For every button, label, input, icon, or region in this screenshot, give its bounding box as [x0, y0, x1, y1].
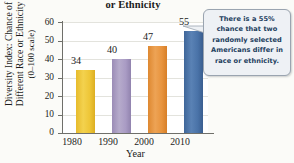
- bar-fill-2010: [184, 31, 203, 133]
- y-tick-mark-50: [58, 41, 63, 42]
- y-tick-mark-20: [58, 96, 63, 97]
- y-axis-label-line-2: Different Race or Ethnicity: [14, 2, 26, 107]
- callout-box: There is a 55% chance that two randomly …: [203, 9, 291, 76]
- bar-2010[interactable]: [184, 31, 203, 133]
- x-axis-label: Year: [63, 148, 208, 159]
- bar-2000[interactable]: [148, 46, 167, 133]
- callout-line-4: Americans differ in: [207, 45, 287, 55]
- y-axis-label-line-1: Diversity Index: Chance of: [3, 2, 15, 106]
- y-tick-label-50: 50: [32, 35, 54, 45]
- bar-fill-1990: [112, 59, 131, 133]
- bar-value-1990: 40: [97, 44, 127, 55]
- y-tick-mark-10: [58, 115, 63, 116]
- x-tick-label-2010: 2010: [163, 136, 197, 147]
- y-tick-label-0: 0: [32, 127, 54, 137]
- y-tick-mark-30: [58, 78, 63, 79]
- diversity-index-bar-chart: or Ethnicity Diversity Index: Chance of …: [0, 0, 294, 163]
- callout-line-2: chance that two: [207, 24, 287, 34]
- bar-fill-1980: [76, 70, 95, 133]
- y-tick-label-20: 20: [32, 91, 54, 101]
- x-tick-label-2000: 2000: [127, 136, 161, 147]
- x-tick-label-1990: 1990: [91, 136, 125, 147]
- bar-value-1980: 34: [61, 55, 91, 66]
- y-tick-label-30: 30: [32, 72, 54, 82]
- callout-pointer-icon: [183, 24, 205, 38]
- bar-fill-2000: [148, 46, 167, 133]
- y-tick-mark-60: [58, 22, 63, 23]
- bar-1990[interactable]: [112, 59, 131, 133]
- x-tick-label-1980: 1980: [55, 136, 89, 147]
- y-tick-label-40: 40: [32, 54, 54, 64]
- y-tick-label-60: 60: [32, 17, 54, 27]
- chart-title: or Ethnicity: [48, 0, 218, 10]
- callout-line-3: randomly selected: [207, 35, 287, 45]
- callout-line-5: race or ethnicity.: [207, 56, 287, 66]
- y-tick-label-10: 10: [32, 109, 54, 119]
- bar-value-2000: 47: [133, 31, 163, 42]
- x-axis-line: [62, 133, 214, 134]
- callout-line-1: There is a 55%: [207, 14, 287, 24]
- bar-1980[interactable]: [76, 70, 95, 133]
- y-tick-mark-0: [58, 133, 63, 134]
